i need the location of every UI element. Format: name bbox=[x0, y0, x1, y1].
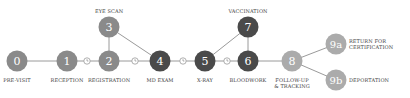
label-x-ray: X-RAY bbox=[197, 77, 213, 83]
label-vaccination: VACCINATION bbox=[228, 8, 267, 14]
label-bloodwork: BLOODWORK bbox=[230, 77, 267, 83]
node-5: 5 bbox=[195, 51, 216, 72]
node-8: 8 bbox=[282, 51, 303, 72]
svg-text:1: 1 bbox=[64, 55, 71, 68]
clock-icon bbox=[180, 58, 186, 64]
label-return-for-certification: RETURN FOR CERTIFICATION bbox=[349, 38, 393, 50]
label-md-exam: MD EXAM bbox=[146, 77, 173, 83]
svg-text:2: 2 bbox=[106, 55, 113, 68]
label-registration: REGISTRATION bbox=[88, 77, 130, 83]
node-7: 7 bbox=[238, 17, 259, 38]
svg-text:4: 4 bbox=[157, 55, 164, 68]
svg-text:3: 3 bbox=[106, 21, 113, 34]
svg-text:7: 7 bbox=[245, 21, 252, 34]
clock-icon bbox=[84, 58, 90, 64]
clock-icon bbox=[224, 58, 230, 64]
node-4: 4 bbox=[150, 51, 171, 72]
svg-text:6: 6 bbox=[245, 55, 252, 68]
svg-text:8: 8 bbox=[289, 55, 296, 68]
node-6: 6 bbox=[238, 51, 259, 72]
svg-text:9b: 9b bbox=[330, 75, 343, 86]
clock-icon bbox=[132, 58, 138, 64]
node-1: 1 bbox=[57, 51, 78, 72]
node-3: 3 bbox=[99, 17, 120, 38]
label-pre-visit: PRE-VISIT bbox=[3, 77, 30, 83]
label-reception: RECEPTION bbox=[51, 77, 84, 83]
node-0: 0 bbox=[7, 51, 28, 72]
node-9b: 9b bbox=[326, 70, 347, 91]
label-eye-scan: EYE SCAN bbox=[95, 8, 123, 14]
node-2: 2 bbox=[99, 51, 120, 72]
svg-text:5: 5 bbox=[202, 55, 209, 68]
label-line: CERTIFICATION bbox=[349, 44, 393, 50]
node-9a: 9a bbox=[326, 34, 347, 55]
svg-text:0: 0 bbox=[14, 55, 21, 68]
label-line: & TRACKING bbox=[274, 83, 310, 89]
label-deportation: DEPORTATION bbox=[349, 77, 389, 83]
svg-text:9a: 9a bbox=[330, 39, 342, 50]
label-follow-up-tracking: FOLLOW-UP & TRACKING bbox=[274, 77, 310, 89]
